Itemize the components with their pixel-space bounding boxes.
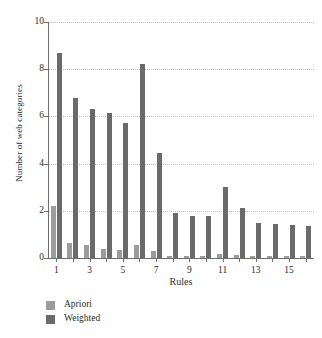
bar-apriori [151, 251, 156, 258]
bar-apriori [67, 243, 72, 258]
legend-label: Weighted [64, 314, 100, 324]
x-tick-label: 3 [80, 266, 100, 276]
y-tick-label: 0 [4, 253, 44, 263]
bar-apriori [134, 245, 139, 258]
legend-item: Weighted [46, 312, 100, 326]
bar-apriori [117, 250, 122, 258]
legend-label: Apriori [64, 300, 92, 310]
bar-apriori [84, 245, 89, 258]
x-tick-mark [123, 258, 124, 262]
bar-weighted [157, 153, 162, 258]
x-tick-mark [289, 258, 290, 262]
x-tick-label: 5 [113, 266, 133, 276]
y-axis-line [48, 22, 49, 258]
x-tick-mark [56, 258, 57, 262]
y-tick-label: 2 [4, 206, 44, 216]
x-tick-mark [156, 258, 157, 262]
bar-weighted [57, 53, 62, 258]
bar-weighted [107, 113, 112, 258]
bars-layer [48, 22, 314, 258]
bar-weighted [173, 213, 178, 258]
x-tick-label: 9 [179, 266, 199, 276]
x-tick-mark [306, 258, 307, 262]
x-tick-mark [256, 258, 257, 262]
bar-weighted [223, 187, 228, 258]
bar-weighted [140, 64, 145, 258]
x-tick-mark [189, 258, 190, 262]
bar-weighted [256, 223, 261, 258]
chart-legend: AprioriWeighted [46, 298, 100, 326]
bar-apriori [101, 249, 106, 258]
bar-weighted [123, 123, 128, 258]
x-tick-mark [139, 258, 140, 262]
x-axis-line [48, 258, 314, 259]
chart-figure: Number of web categories 0246810 1357911… [0, 0, 322, 338]
x-tick-mark [239, 258, 240, 262]
x-tick-mark [272, 258, 273, 262]
x-tick-label: 13 [246, 266, 266, 276]
bar-weighted [306, 226, 311, 258]
x-tick-mark [90, 258, 91, 262]
x-axis-title: Rules [48, 276, 314, 287]
bar-weighted [73, 98, 78, 258]
bar-weighted [190, 216, 195, 258]
bar-weighted [290, 225, 295, 258]
y-tick-label: 8 [4, 64, 44, 74]
x-tick-mark [223, 258, 224, 262]
x-tick-label: 15 [279, 266, 299, 276]
bar-weighted [240, 208, 245, 258]
x-tick-mark [173, 258, 174, 262]
x-tick-mark [106, 258, 107, 262]
x-tick-label: 7 [146, 266, 166, 276]
legend-swatch [46, 315, 55, 324]
legend-item: Apriori [46, 298, 100, 312]
plot-area: 0246810 13579111315 [48, 22, 314, 258]
x-tick-mark [206, 258, 207, 262]
x-tick-label: 1 [46, 266, 66, 276]
y-tick-label: 10 [4, 17, 44, 27]
x-tick-mark [73, 258, 74, 262]
y-tick-label: 4 [4, 159, 44, 169]
legend-swatch [46, 301, 55, 310]
bar-weighted [206, 216, 211, 258]
bar-weighted [90, 109, 95, 258]
bar-weighted [273, 224, 278, 258]
x-tick-label: 11 [213, 266, 233, 276]
y-tick-label: 6 [4, 111, 44, 121]
bar-apriori [51, 206, 56, 258]
